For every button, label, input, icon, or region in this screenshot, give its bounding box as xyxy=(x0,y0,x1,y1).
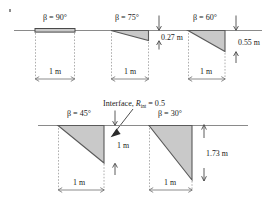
case-beta-75: β = 75° 0.27 m 1 m xyxy=(111,13,184,81)
interface-value: = 0.5 xyxy=(146,99,165,108)
width-label-90: 1 m xyxy=(49,67,62,76)
depth-label-75: 0.27 m xyxy=(161,33,184,42)
shape-triangle-beta-75 xyxy=(111,31,149,41)
depth-label-30: 1.73 m xyxy=(206,149,229,158)
case-beta-45: β = 45° 1 m 1 m xyxy=(58,109,130,192)
scan-artifact-speck xyxy=(9,9,11,12)
interface-leader-arrowhead xyxy=(111,128,121,137)
figure-canvas: β = 90° 1 m β = 75° 0.27 m 1 m β = 60° 0… xyxy=(0,0,269,203)
width-label-75: 1 m xyxy=(124,67,137,76)
interface-label-prefix: Interface, xyxy=(103,99,136,108)
width-label-60: 1 m xyxy=(200,67,213,76)
beta-label-75: β = 75° xyxy=(115,13,139,22)
width-label-45: 1 m xyxy=(73,178,86,187)
shape-triangle-beta-45 xyxy=(58,126,104,164)
shape-bar-beta-90 xyxy=(35,29,75,33)
width-label-30: 1 m xyxy=(164,178,177,187)
beta-label-30: β = 30° xyxy=(158,109,182,118)
case-beta-30: β = 30° 1.73 m 1 m xyxy=(149,109,229,192)
shape-triangle-beta-60 xyxy=(188,31,225,52)
shape-triangle-beta-30 xyxy=(149,126,192,181)
beta-label-90: β = 90° xyxy=(43,13,67,22)
case-beta-60: β = 60° 0.55 m 1 m xyxy=(188,13,261,81)
depth-label-60: 0.55 m xyxy=(238,38,261,47)
case-beta-90: β = 90° 1 m xyxy=(35,13,75,81)
beta-label-60: β = 60° xyxy=(193,13,217,22)
diagram-svg: β = 90° 1 m β = 75° 0.27 m 1 m β = 60° 0… xyxy=(0,0,269,203)
beta-label-45: β = 45° xyxy=(67,109,91,118)
interface-label-text: Interface, Rint = 0.5 xyxy=(103,99,165,109)
depth-label-45: 1 m xyxy=(117,141,130,150)
